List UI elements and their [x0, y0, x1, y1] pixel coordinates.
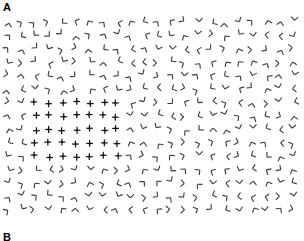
corner-L-element — [211, 154, 216, 161]
corner-L-element — [99, 182, 103, 189]
corner-L-element — [3, 70, 7, 77]
corner-L-element — [265, 194, 269, 201]
corner-L-element — [192, 89, 197, 96]
plus-cross-element — [112, 125, 119, 132]
plus-cross-element — [87, 100, 94, 107]
corner-L-element — [3, 90, 10, 94]
corner-L-element — [180, 169, 185, 174]
corner-L-element — [211, 169, 216, 175]
corner-L-element — [4, 198, 10, 203]
corner-L-element — [172, 113, 176, 120]
corner-L-element — [260, 142, 266, 147]
corner-L-element — [87, 205, 94, 209]
corner-L-element — [170, 20, 175, 26]
corner-L-element — [225, 62, 231, 67]
corner-L-element — [222, 85, 229, 89]
corner-L-element — [249, 181, 256, 185]
corner-L-element — [87, 166, 94, 170]
corner-L-element — [132, 60, 136, 67]
corner-L-element — [49, 62, 54, 69]
plus-cross-element — [114, 140, 121, 147]
corner-L-element — [185, 100, 190, 106]
corner-L-element — [146, 33, 151, 39]
corner-L-element — [21, 32, 26, 38]
corner-L-element — [180, 114, 184, 121]
corner-L-element — [18, 191, 25, 195]
corner-L-element — [104, 44, 109, 50]
corner-L-element — [223, 130, 230, 134]
plus-cross-element — [72, 141, 79, 148]
corner-L-element — [143, 58, 147, 65]
corner-L-element — [155, 123, 161, 128]
corner-L-element — [195, 169, 200, 174]
corner-L-element — [99, 75, 106, 80]
corner-L-element — [179, 192, 185, 197]
corner-L-element — [197, 184, 202, 189]
corner-L-element — [71, 178, 76, 184]
corner-L-element — [251, 195, 255, 202]
corner-L-element — [206, 204, 211, 209]
corner-L-element — [61, 208, 67, 213]
corner-L-element — [208, 30, 212, 37]
corner-L-element — [291, 116, 298, 120]
corner-L-element — [171, 166, 176, 171]
corner-L-element — [212, 61, 217, 67]
corner-L-element — [290, 192, 297, 196]
corner-L-element — [181, 72, 188, 76]
corner-L-element — [226, 141, 231, 147]
corner-L-element — [3, 209, 8, 215]
corner-L-element — [208, 140, 213, 146]
corner-L-element — [156, 45, 163, 50]
plus-cross-element — [45, 100, 52, 107]
corner-L-element — [87, 21, 93, 26]
corner-L-element — [276, 112, 281, 118]
corner-L-element — [212, 191, 217, 198]
corner-L-element — [265, 111, 270, 117]
corner-L-element — [124, 183, 130, 188]
corner-L-element — [153, 59, 157, 66]
corner-L-element — [6, 129, 13, 133]
corner-L-element — [47, 44, 53, 49]
corner-L-element — [268, 76, 273, 81]
corner-L-element — [126, 85, 131, 91]
corner-L-element — [277, 50, 284, 55]
corner-L-element — [29, 22, 34, 27]
corner-L-element — [61, 91, 68, 95]
corner-L-element — [104, 86, 109, 93]
corner-L-element — [210, 180, 217, 184]
corner-L-element — [58, 48, 62, 55]
corner-L-element — [34, 183, 40, 188]
corner-L-element — [182, 36, 188, 41]
corner-L-element — [179, 62, 184, 68]
corner-L-element — [43, 20, 48, 27]
corner-L-element — [85, 49, 92, 53]
corner-L-element — [267, 169, 272, 175]
corner-L-element — [166, 176, 172, 181]
corner-L-element — [126, 155, 132, 160]
corner-L-element — [239, 100, 243, 107]
corner-L-element — [185, 131, 190, 136]
corner-L-element — [279, 33, 283, 40]
corner-L-element — [100, 62, 107, 66]
corner-L-element — [18, 183, 23, 189]
corner-L-element — [59, 180, 63, 187]
corner-L-element — [236, 180, 243, 184]
corner-L-element — [139, 182, 144, 187]
corner-L-element — [71, 57, 75, 64]
corner-L-element — [21, 113, 26, 120]
corner-L-element — [289, 32, 295, 37]
corner-L-element — [90, 70, 95, 75]
corner-L-element — [295, 98, 299, 105]
corner-L-element — [17, 74, 24, 78]
plus-cross-element — [101, 99, 108, 106]
corner-L-element — [267, 152, 272, 157]
corner-L-element — [235, 124, 242, 129]
corner-L-element — [113, 71, 118, 76]
corner-L-element — [247, 20, 252, 25]
corner-L-element — [261, 206, 268, 210]
corner-L-element — [213, 19, 218, 25]
corner-L-element — [237, 166, 243, 171]
corner-L-element — [35, 74, 39, 81]
corner-L-element — [113, 29, 119, 34]
corner-L-element — [289, 124, 296, 128]
